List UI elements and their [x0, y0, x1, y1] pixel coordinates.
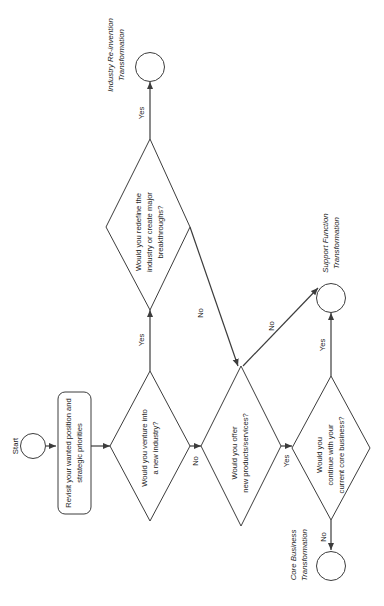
outcome-support-line1: Support Function	[321, 213, 330, 272]
flowchart-canvas: Start Revisit your wanted position and s…	[0, 0, 384, 606]
process-box-line2: strategic priorities	[75, 423, 84, 483]
edge-label-redefine-yes: Yes	[137, 107, 146, 120]
outcome-corebiz-line1: Core Business	[289, 530, 298, 581]
edge-label-redefine-no: No	[196, 308, 205, 318]
edge-label-venture-yes: Yes	[137, 334, 146, 347]
edge-label-offer-no: No	[267, 321, 276, 331]
decision-offer-line1: Would you offer	[230, 426, 239, 479]
outcome-core-business-terminator[interactable]	[317, 552, 346, 581]
decision-redefine-line2: industry or create major	[145, 192, 154, 272]
decision-core-line2: continue with your	[326, 424, 335, 486]
edge-label-offer-yes: Yes	[282, 455, 291, 468]
edge-label-venture-no: No	[191, 456, 200, 466]
decision-offer-line2: new products/services?	[241, 413, 250, 492]
outcome-corebiz-line2: Transformation	[300, 529, 309, 581]
decision-core-line3: current core business?	[337, 417, 346, 494]
start-terminator[interactable]	[21, 434, 46, 459]
outcome-support-line2: Transformation	[332, 217, 341, 269]
flowchart-svg: Start Revisit your wanted position and s…	[0, 0, 384, 606]
outcome-industry-reinvention-terminator[interactable]	[136, 53, 165, 82]
decision-venture-new-industry[interactable]	[110, 371, 190, 521]
decision-venture-line2: a new industry?	[151, 421, 160, 474]
start-label: Start	[11, 437, 20, 454]
connector-offer-no	[243, 288, 318, 366]
edge-label-core-no: No	[319, 532, 328, 542]
decision-venture-line1: Would you venture into	[140, 409, 149, 487]
connector-redefine-no	[190, 227, 238, 366]
outcome-industry-line2: Transformation	[117, 29, 126, 81]
decision-redefine-line1: Would you redefine the	[134, 193, 143, 271]
outcome-support-function-terminator[interactable]	[317, 284, 346, 313]
outcome-industry-line1: Industry Re-invention	[106, 18, 115, 92]
process-box-line1: Revisit your wanted position and	[64, 398, 73, 507]
decision-redefine-line3: breakthroughs?	[156, 206, 165, 259]
decision-core-line1: Would you	[315, 437, 324, 473]
edge-label-core-yes: Yes	[318, 339, 327, 352]
